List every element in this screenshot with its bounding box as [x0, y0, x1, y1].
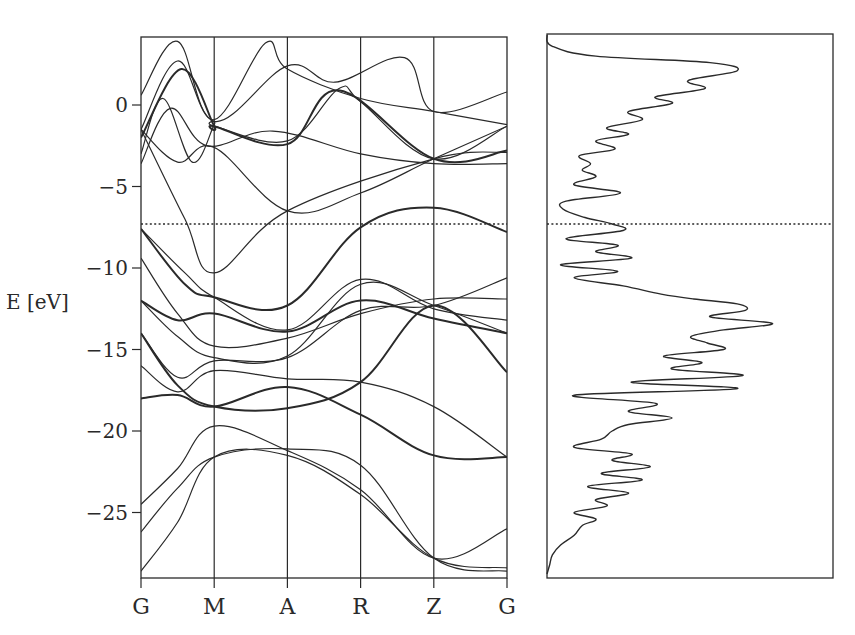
band-curve-17	[141, 426, 507, 559]
band-plot-frame	[141, 37, 507, 578]
y-axis-ticks: 0−5−10−15−20−25	[86, 93, 141, 525]
band-curve-1	[141, 41, 507, 121]
k-label-g: G	[498, 594, 516, 619]
band-curve-14	[141, 305, 507, 410]
y-tick-label: −15	[86, 338, 128, 362]
y-axis-label: E [eV]	[6, 290, 69, 314]
dos-curve	[547, 35, 773, 574]
y-tick-label: 0	[115, 93, 128, 117]
y-tick-label: −5	[99, 175, 128, 199]
y-tick-label: −10	[86, 256, 128, 280]
band-curves	[141, 41, 507, 571]
band-curve-5	[141, 108, 507, 164]
y-tick-label: −20	[86, 419, 128, 443]
k-label-a: A	[278, 594, 296, 619]
k-label-z: Z	[426, 594, 441, 619]
dos-plot	[547, 34, 833, 578]
k-label-g: G	[132, 594, 150, 619]
y-tick-label: −25	[86, 501, 128, 525]
band-curve-4	[141, 69, 507, 162]
k-label-m: M	[203, 594, 226, 619]
band-curve-8	[141, 208, 507, 311]
k-label-r: R	[352, 594, 370, 619]
figure: 0−5−10−15−20−25 GMARZG E [eV]	[0, 0, 855, 635]
band-structure-plot: 0−5−10−15−20−25 GMARZG E [eV]	[6, 37, 516, 619]
band-curve-15	[141, 366, 507, 457]
band-curve-16	[141, 387, 507, 459]
dos-plot-frame	[547, 34, 833, 578]
x-axis-k-labels: GMARZG	[132, 578, 516, 619]
